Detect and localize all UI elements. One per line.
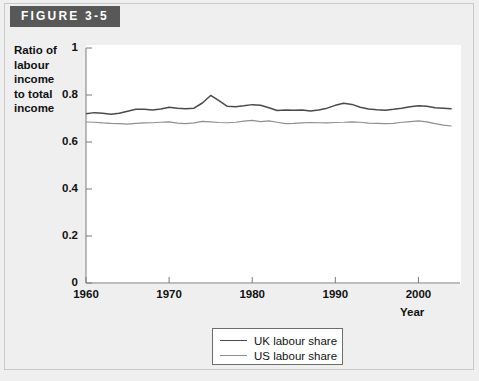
axis-tick-marks	[86, 48, 418, 283]
axis-lines	[86, 48, 460, 283]
legend-swatch-uk-icon	[220, 340, 247, 341]
legend-swatch-us-icon	[220, 355, 247, 356]
series-line-uk-labour-share	[86, 95, 452, 114]
legend-label-us: US labour share	[254, 350, 337, 362]
chart-legend: UK labour share US labour share	[212, 328, 343, 365]
legend-item-uk: UK labour share	[213, 333, 342, 348]
series-line-us-labour-share	[86, 120, 452, 126]
legend-label-uk: UK labour share	[254, 335, 337, 347]
chart-canvas	[0, 0, 479, 381]
legend-item-us: US labour share	[213, 348, 342, 363]
figure-page: FIGURE 3-5 Ratio of labour income to tot…	[0, 0, 479, 381]
